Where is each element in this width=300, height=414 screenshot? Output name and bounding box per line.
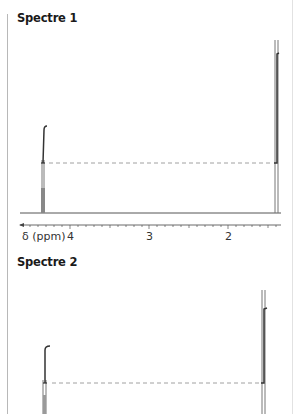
spectre-2-chart: [43, 290, 267, 414]
axis-arrow-icon: [19, 223, 24, 227]
x-axis-ticks: [30, 225, 276, 229]
spectra-plot: δ (ppm) 4 3 2: [0, 0, 300, 414]
tick-label-2: 2: [225, 230, 232, 243]
tick-label-4: 4: [67, 230, 74, 243]
spectre-1-chart: δ (ppm) 4 3 2: [19, 40, 281, 243]
integration-curve-1: [45, 346, 50, 383]
integration-curve-1: [43, 126, 47, 163]
tick-label-3: 3: [146, 230, 153, 243]
x-axis-label: δ (ppm): [22, 230, 66, 243]
